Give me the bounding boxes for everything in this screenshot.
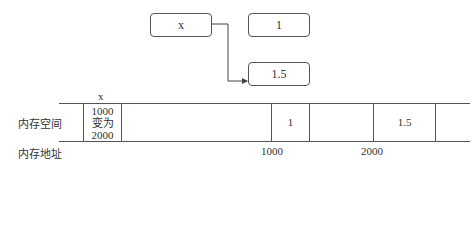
cell-divider [435,103,436,141]
address-1000: 1000 [261,145,283,157]
cell-line: 2000 [84,129,121,141]
cell-divider [309,103,310,141]
memory-cell-2000: 1.5 [374,116,435,128]
cell-line: 变为 [84,117,121,129]
cell-divider [121,103,122,141]
variable-label-x: x [98,90,104,102]
memory-space-label: 内存空间 [18,115,62,131]
memory-cell-1000: 1 [272,116,309,128]
address-2000: 2000 [361,145,383,157]
memory-address-label: 内存地址 [18,145,62,161]
cell-line: 1000 [84,105,121,117]
memory-cell-x: 1000 变为 2000 [84,105,121,141]
memory-bottom-line [59,141,470,142]
